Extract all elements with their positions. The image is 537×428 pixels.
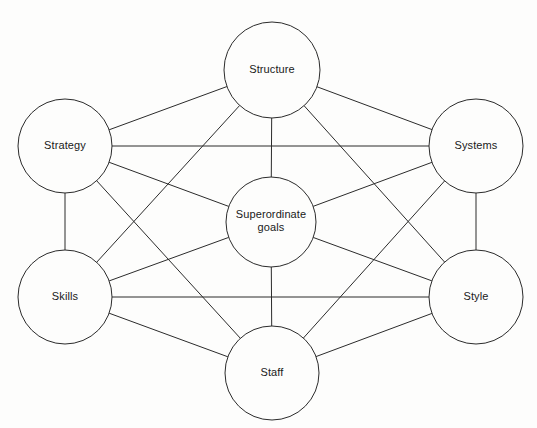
edge-goals-style: [313, 237, 432, 280]
node-strategy[interactable]: Strategy: [18, 99, 112, 193]
edge-goals-skills: [109, 237, 229, 281]
node-label-structure: Structure: [249, 63, 295, 75]
node-staff[interactable]: Staff: [225, 326, 319, 420]
node-layer: StructureStrategySystemsSuperordinategoa…: [18, 22, 523, 420]
node-label-style: Style: [464, 290, 489, 302]
edge-structure-strategy: [109, 87, 227, 130]
node-structure[interactable]: Structure: [224, 22, 320, 118]
node-style[interactable]: Style: [429, 250, 523, 344]
edge-structure-systems: [317, 87, 432, 130]
node-goals[interactable]: Superordinategoals: [226, 177, 316, 267]
node-label-systems: Systems: [455, 139, 498, 151]
edge-systems-goals: [313, 162, 432, 206]
seven-s-framework-diagram: StructureStrategySystemsSuperordinategoa…: [0, 0, 537, 428]
node-label-skills: Skills: [52, 290, 79, 302]
edge-strategy-goals: [109, 162, 229, 206]
edge-style-staff: [316, 313, 432, 356]
node-label-goals: Superordinate: [236, 208, 306, 220]
node-label-goals: goals: [258, 221, 285, 233]
diagram-canvas: StructureStrategySystemsSuperordinategoa…: [0, 0, 537, 428]
node-label-staff: Staff: [261, 366, 285, 378]
edge-skills-staff: [109, 313, 228, 357]
node-label-strategy: Strategy: [44, 139, 86, 151]
node-skills[interactable]: Skills: [18, 250, 112, 344]
node-systems[interactable]: Systems: [429, 99, 523, 193]
